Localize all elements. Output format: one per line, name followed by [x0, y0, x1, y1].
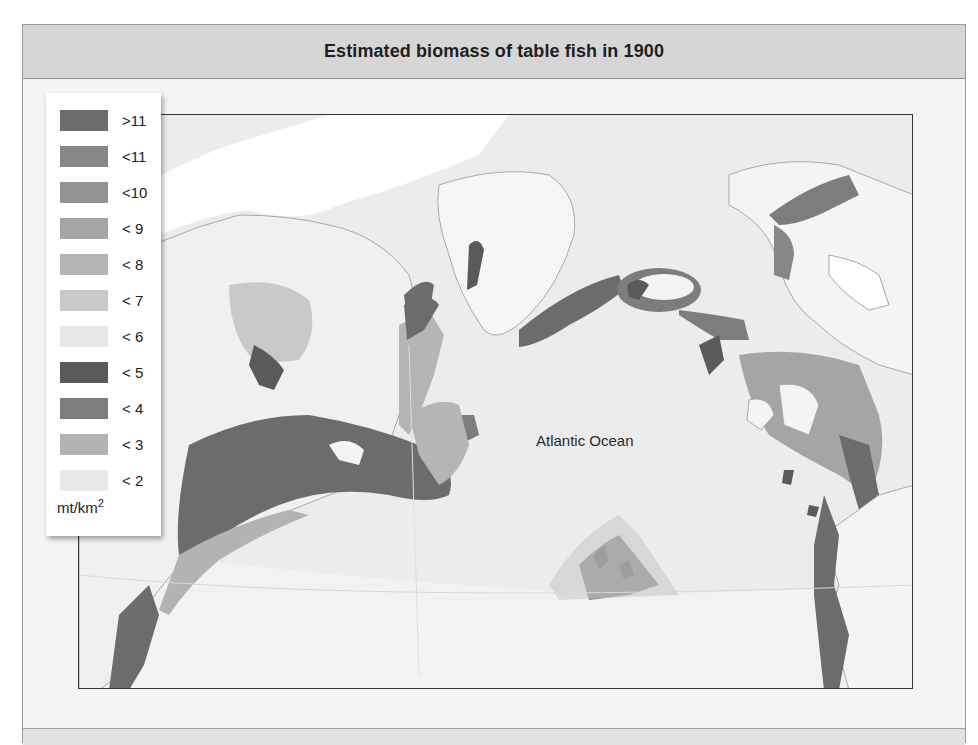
- legend-unit-text: mt/km: [57, 499, 98, 516]
- legend-item: <11: [46, 138, 161, 174]
- legend-swatch: [60, 254, 108, 275]
- map-graphic: [79, 115, 913, 689]
- legend-label: < 5: [122, 364, 143, 381]
- bottom-band: [23, 728, 965, 745]
- legend-item: < 6: [46, 318, 161, 354]
- legend-item: < 9: [46, 210, 161, 246]
- legend-swatch: [60, 110, 108, 131]
- legend-item: < 3: [46, 426, 161, 462]
- map-legend: >11 <11 <10 < 9 < 8 < 7 < 6 < 5: [46, 93, 161, 536]
- legend-item: < 2: [46, 462, 161, 498]
- legend-item: <10: [46, 174, 161, 210]
- legend-swatch: [60, 290, 108, 311]
- legend-label: >11: [122, 112, 146, 129]
- legend-item: < 8: [46, 246, 161, 282]
- legend-swatch: [60, 182, 108, 203]
- legend-label: < 2: [122, 472, 143, 489]
- legend-label: < 6: [122, 328, 143, 345]
- figure-title: Estimated biomass of table fish in 1900: [324, 41, 664, 62]
- legend-label: < 3: [122, 436, 143, 453]
- legend-item: < 5: [46, 354, 161, 390]
- legend-item: >11: [46, 102, 161, 138]
- legend-label: < 9: [122, 220, 143, 237]
- figure-frame: Estimated biomass of table fish in 1900: [22, 24, 966, 743]
- legend-label: <10: [122, 184, 147, 201]
- legend-item: < 7: [46, 282, 161, 318]
- legend-label: < 4: [122, 400, 143, 417]
- legend-label: < 8: [122, 256, 143, 273]
- legend-swatch: [60, 362, 108, 383]
- legend-unit: mt/km2: [57, 497, 104, 516]
- legend-item: < 4: [46, 390, 161, 426]
- legend-swatch: [60, 218, 108, 239]
- title-bar: Estimated biomass of table fish in 1900: [23, 25, 965, 79]
- legend-swatch: [60, 470, 108, 491]
- ocean-label: Atlantic Ocean: [536, 432, 634, 449]
- legend-label: <11: [122, 148, 146, 165]
- legend-unit-superscript: 2: [98, 497, 104, 509]
- legend-swatch: [60, 434, 108, 455]
- map-panel: Atlantic Ocean: [78, 114, 913, 689]
- legend-label: < 7: [122, 292, 143, 309]
- legend-swatch: [60, 146, 108, 167]
- legend-swatch: [60, 398, 108, 419]
- legend-swatch: [60, 326, 108, 347]
